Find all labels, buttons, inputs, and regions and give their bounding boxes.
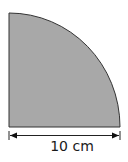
dimension-label: 10 cm: [0, 138, 128, 154]
quarter-circle-shape: [9, 13, 120, 127]
